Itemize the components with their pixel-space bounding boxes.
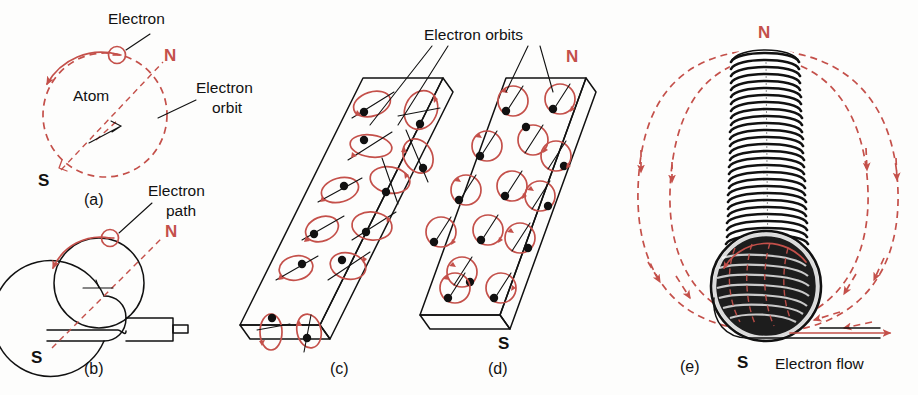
orbit-d-6 xyxy=(451,175,481,205)
field-arrow-right-1 xyxy=(866,148,867,170)
orbit-d-9 xyxy=(426,217,456,247)
label-electron-flow: Electron flow xyxy=(775,355,865,372)
electron-orbits-leader-d2 xyxy=(540,46,553,92)
field-arrow-left-4 xyxy=(676,276,690,298)
coil-near-end xyxy=(711,231,821,341)
loop-terminal-tip xyxy=(173,325,188,333)
caption-panel-d: (d) xyxy=(488,360,508,377)
loop-lead-inner xyxy=(47,330,126,333)
orbit-d-11 xyxy=(505,223,535,253)
label-electron-orbit-line2: orbit xyxy=(212,99,243,116)
orbit-c-2 xyxy=(398,85,444,135)
field-arrow-bottom-right-1 xyxy=(814,312,840,320)
electron-orbit-leader xyxy=(158,100,196,118)
orbit-c-10 xyxy=(327,249,370,283)
orbit-d-2 xyxy=(545,84,575,114)
label-electron-path-line2: path xyxy=(166,202,196,219)
field-arrow-right-4 xyxy=(844,274,856,294)
magnetic-axis-a xyxy=(61,62,163,170)
loop-terminal-block xyxy=(126,318,173,341)
orbit-d-3 xyxy=(518,123,548,155)
axis-end-tick-a xyxy=(59,160,67,171)
label-electron-orbits: Electron orbits xyxy=(424,26,523,43)
loop-center-tick xyxy=(83,280,113,288)
label-electron: Electron xyxy=(108,10,165,27)
orbit-c-9 xyxy=(276,253,318,284)
orbits-aligned-d xyxy=(426,84,575,287)
caption-panel-b: (b) xyxy=(84,360,104,377)
caption-panel-e: (e) xyxy=(680,358,700,375)
orbit-d-1 xyxy=(498,86,528,116)
bar-c-front-face xyxy=(240,325,330,339)
orbit-c-3 xyxy=(348,132,393,160)
electron-orbits-leader-d xyxy=(506,46,528,92)
panel-b: Electron path N S (b) xyxy=(0,182,205,377)
orbit-c-5 xyxy=(318,173,362,207)
orbit-d-e1 xyxy=(440,273,470,303)
panel-e: N S Electron flow (e) xyxy=(638,23,898,375)
electron-path-leader xyxy=(119,203,152,233)
orbit-d-10 xyxy=(473,215,503,245)
panel-a: Electron Atom Electron orbit N S (a) xyxy=(38,10,253,208)
label-atom: Atom xyxy=(73,87,109,104)
electron-leader xyxy=(126,34,150,50)
orbit-d-4 xyxy=(472,131,502,161)
magnetism-figure: Electron Atom Electron orbit N S (a) xyxy=(0,0,918,395)
caption-panel-c: (c) xyxy=(330,360,349,377)
loop-inner-ring xyxy=(54,238,144,328)
orbits-endface-c xyxy=(257,312,324,352)
panel-d: N S (d) xyxy=(420,47,596,377)
bar-c-side-face xyxy=(320,78,453,339)
orbit-c-4 xyxy=(397,130,439,182)
label-north-a: N xyxy=(164,46,176,65)
orbits-endface-d xyxy=(440,273,516,303)
panel-c: (c) xyxy=(240,78,453,377)
orbit-c-6 xyxy=(368,158,412,204)
label-south-a: S xyxy=(38,171,49,190)
electron-symbol xyxy=(109,47,126,64)
electron-orbit-circle xyxy=(43,53,167,177)
label-south-d: S xyxy=(498,334,509,353)
orbit-d-5 xyxy=(541,141,571,171)
orbits-random-c xyxy=(276,85,444,283)
orbit-d-7 xyxy=(497,171,527,201)
label-north-e: N xyxy=(758,23,770,42)
orbit-d-e2 xyxy=(486,273,516,303)
caption-panel-a: (a) xyxy=(84,191,104,208)
label-north-d: N xyxy=(566,47,578,66)
label-south-b: S xyxy=(31,348,42,367)
label-electron-orbit-line1: Electron xyxy=(196,79,253,96)
bar-d-front-face xyxy=(420,315,510,329)
orbit-c-7 xyxy=(302,212,344,247)
orbit-c-8 xyxy=(351,210,396,242)
magnetic-axis-b xyxy=(52,238,162,348)
figure-canvas: Electron Atom Electron orbit N S (a) xyxy=(0,0,918,395)
field-arrow-bottom-right-2 xyxy=(844,322,872,328)
label-north-b: N xyxy=(165,222,177,241)
label-south-e: S xyxy=(737,353,748,372)
label-electron-path-line1: Electron xyxy=(148,182,205,199)
orbit-c-e2 xyxy=(294,312,325,352)
orbit-c-e1 xyxy=(257,314,290,350)
orbit-d-12 xyxy=(447,257,477,287)
